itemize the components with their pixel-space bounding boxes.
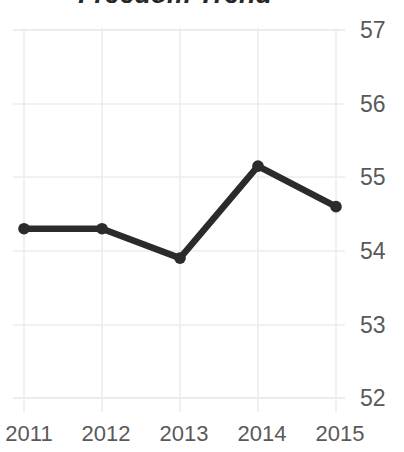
x-tick-label-2011: 2011 xyxy=(5,423,52,445)
y-tick-label-54: 54 xyxy=(360,240,400,263)
y-tick-label-56: 56 xyxy=(360,93,400,116)
data-point-2012 xyxy=(96,223,108,235)
plot-area xyxy=(0,0,404,452)
x-tick-label-2015: 2015 xyxy=(316,423,365,445)
x-tick-label-2012: 2012 xyxy=(82,423,131,445)
data-point-2015 xyxy=(330,201,342,213)
data-point-2011 xyxy=(18,223,30,235)
chart-svg xyxy=(0,0,404,452)
x-tick-label-2014: 2014 xyxy=(238,423,287,445)
y-tick-label-52: 52 xyxy=(360,387,400,410)
y-tick-label-57: 57 xyxy=(360,19,400,42)
data-point-2013 xyxy=(174,252,186,264)
y-tick-label-53: 53 xyxy=(360,314,400,337)
y-tick-label-55: 55 xyxy=(360,166,400,189)
x-tick-label-2013: 2013 xyxy=(160,423,209,445)
data-point-2014 xyxy=(252,160,264,172)
vertical-gridlines xyxy=(24,28,336,412)
freedom-trend-chart: Freedom Trend xyxy=(0,0,404,452)
horizontal-gridlines xyxy=(13,30,345,398)
